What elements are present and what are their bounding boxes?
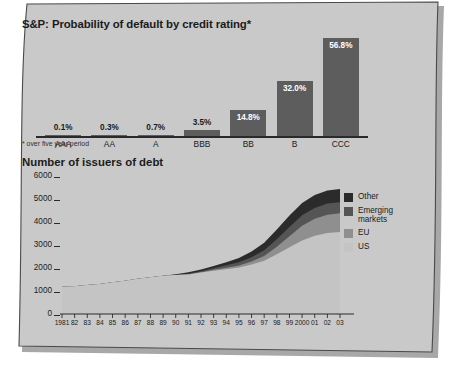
bar-value-label: 0.3% (89, 123, 129, 132)
y-axis-label: 4000 (22, 217, 52, 226)
bar-value-label: 3.5% (182, 118, 222, 127)
bar-bb: 14.8% (228, 32, 268, 136)
y-tick (54, 269, 60, 270)
x-axis-label: 98 (271, 319, 283, 326)
x-axis-label: 96 (246, 319, 258, 326)
y-axis-label: 2000 (22, 263, 52, 272)
legend-label-line2: markets (358, 215, 387, 224)
x-axis-label: 95 (233, 319, 245, 326)
legend-label: Emerging (358, 206, 393, 215)
y-tick (54, 246, 60, 247)
y-tick (54, 200, 60, 201)
bar-chart-title: S&P: Probability of default by credit ra… (22, 18, 382, 30)
y-axis-label: 5000 (22, 194, 52, 203)
bar-b: 32.0% (275, 32, 315, 136)
x-axis-label: 03 (334, 319, 346, 326)
bar-value-label: 0.1% (43, 123, 83, 132)
bar-aa: 0.3% (89, 32, 129, 136)
bar-category-label: AA (89, 139, 129, 149)
scanned-page: S&P: Probability of default by credit ra… (0, 0, 456, 369)
bar-rect (323, 38, 359, 136)
y-axis-label: 0 (22, 309, 52, 318)
legend-swatch (344, 207, 353, 216)
bar-value-label: 56.8% (321, 41, 361, 50)
legend-swatch (344, 229, 353, 238)
bar-category-label: BBB (182, 139, 222, 149)
bar-category-label: CCC (321, 139, 361, 149)
y-tick (54, 223, 60, 224)
bar-aaa: 0.1% (43, 32, 83, 136)
x-axis-label: 93 (208, 319, 220, 326)
x-axis-label: 88 (144, 319, 156, 326)
area-chart-panel: Number of issuers of debt 01000200030004… (22, 156, 434, 346)
x-axis-label: 86 (119, 319, 131, 326)
bar-chart-footnote: * over five year period (22, 140, 89, 147)
x-axis-label: 82 (69, 319, 81, 326)
x-axis-label: 90 (170, 319, 182, 326)
x-axis-label: 89 (157, 319, 169, 326)
bar-chart-baseline (36, 136, 368, 138)
x-axis-label: 84 (94, 319, 106, 326)
area-band-us (62, 232, 340, 314)
y-axis-label: 1000 (22, 286, 52, 295)
y-axis-label: 6000 (22, 171, 52, 180)
bar-bbb: 3.5% (182, 32, 222, 136)
y-axis-label: 3000 (22, 240, 52, 249)
y-tick (54, 292, 60, 293)
legend-swatch (344, 193, 353, 202)
bar-value-label: 14.8% (228, 113, 268, 122)
x-axis-label: 02 (321, 319, 333, 326)
area-chart-title: Number of issuers of debt (22, 156, 434, 168)
x-axis-label: 01 (309, 319, 321, 326)
bar-category-label: BB (228, 139, 268, 149)
bar-chart-plot: 0.1%0.3%0.7%3.5%14.8%32.0%56.8% (40, 32, 364, 136)
legend-label: US (358, 242, 369, 251)
bar-value-label: 0.7% (136, 123, 176, 132)
x-axis-label: 97 (258, 319, 270, 326)
x-axis-label: 92 (195, 319, 207, 326)
bar-chart-panel: S&P: Probability of default by credit ra… (22, 18, 382, 158)
bar-a: 0.7% (136, 32, 176, 136)
x-axis-label: 91 (182, 319, 194, 326)
legend-label: EU (358, 228, 369, 237)
x-axis-label: 87 (132, 319, 144, 326)
y-tick (54, 315, 60, 316)
bar-category-label: B (275, 139, 315, 149)
y-tick (54, 177, 60, 178)
legend-label: Other (358, 192, 378, 201)
legend-swatch (344, 243, 353, 252)
bar-category-label: A (136, 139, 176, 149)
x-axis-label: 83 (81, 319, 93, 326)
bar-ccc: 56.8% (321, 32, 361, 136)
x-axis-label: 85 (107, 319, 119, 326)
bar-value-label: 32.0% (275, 84, 315, 93)
x-axis-label: 94 (220, 319, 232, 326)
